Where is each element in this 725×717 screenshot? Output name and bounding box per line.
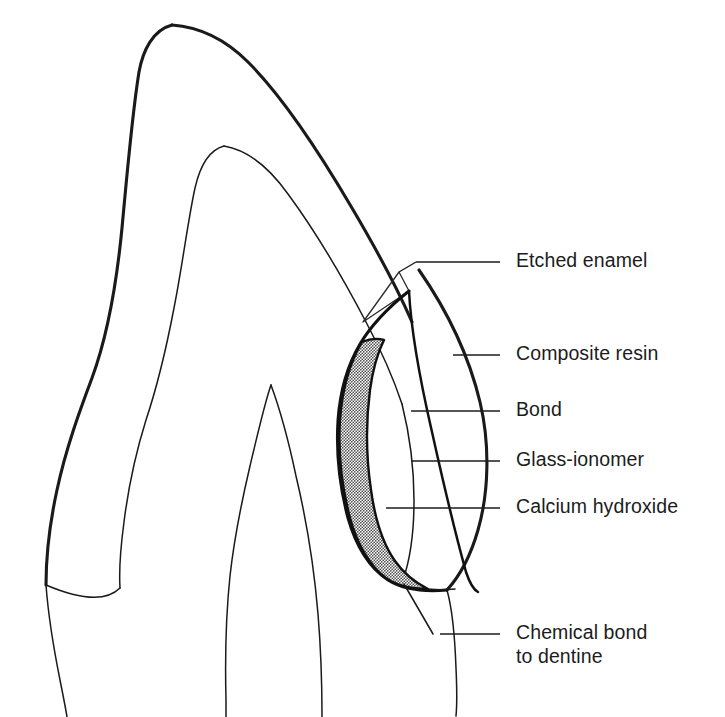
label-calcium-hydroxide: Calcium hydroxide [516, 495, 678, 517]
label-composite-resin: Composite resin [516, 342, 658, 364]
tooth-restoration-diagram: Etched enamel Composite resin Bond Glass… [0, 0, 725, 717]
restoration-cervical-margin [428, 589, 455, 590]
label-chemical-bond-line2: to dentine [516, 645, 603, 667]
label-chemical-bond-line1: Chemical bond [516, 621, 647, 643]
label-etched-enamel: Etched enamel [516, 249, 647, 271]
label-bond: Bond [516, 398, 562, 420]
label-glass-ionomer: Glass-ionomer [516, 448, 644, 470]
figure-root: Etched enamel Composite resin Bond Glass… [0, 0, 725, 717]
